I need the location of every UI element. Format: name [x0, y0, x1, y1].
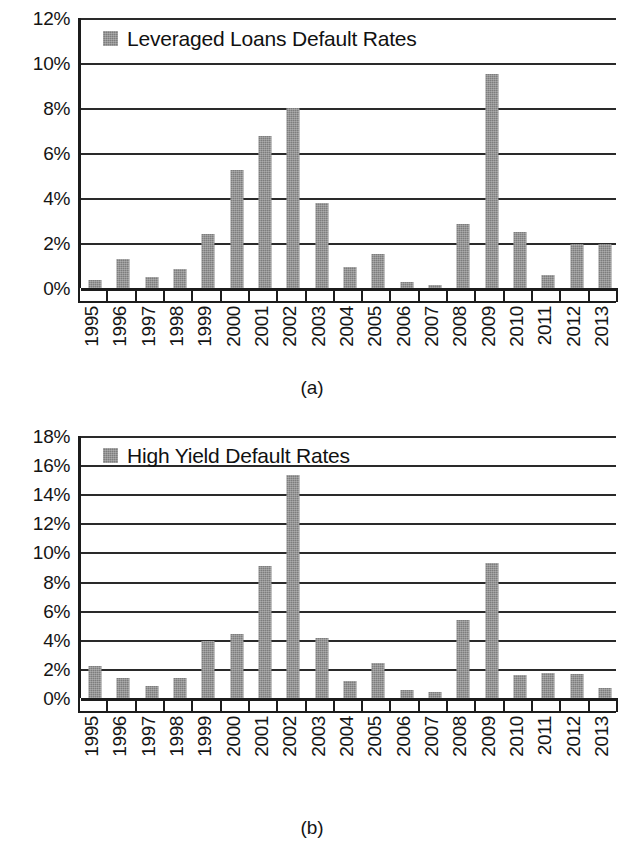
x-axis-label-2007: 2007	[422, 306, 441, 347]
y-axis-tick-label: 16%	[33, 456, 70, 475]
bar-rect	[570, 244, 583, 288]
y-axis-tick-label: 14%	[33, 485, 70, 504]
bar-2005	[364, 436, 392, 698]
bar-rect	[570, 674, 583, 698]
bar-2000	[223, 436, 251, 698]
x-axis-tick-mark	[446, 288, 448, 302]
bar-2008	[449, 436, 477, 698]
legend-a: Leveraged Loans Default Rates	[103, 28, 417, 49]
bar-2005	[364, 18, 392, 288]
legend-swatch-icon	[103, 448, 118, 463]
x-axis-label-1999: 1999	[195, 716, 214, 757]
x-axis-tick-mark	[418, 288, 420, 302]
bar-2010	[506, 436, 534, 698]
bar-2012	[562, 436, 590, 698]
x-axis-tick-mark	[559, 698, 561, 712]
x-axis-tick-mark	[588, 698, 590, 712]
x-axis-tick-mark	[163, 288, 165, 302]
bar-rect	[117, 678, 130, 698]
legend-label-b: High Yield Default Rates	[127, 445, 350, 466]
x-axis-label-1996: 1996	[110, 716, 129, 757]
x-axis-tick-mark	[220, 698, 222, 712]
plot-area-b: High Yield Default Rates	[78, 436, 616, 698]
bar-rect	[457, 620, 470, 698]
x-axis-label-2005: 2005	[365, 716, 384, 757]
bar-rect	[343, 681, 356, 698]
bar-series-a	[81, 18, 616, 288]
x-axis-tick-mark	[531, 698, 533, 712]
bar-rect	[343, 267, 356, 288]
y-axis-tick-label: 0%	[43, 689, 70, 708]
x-axis-label-2006: 2006	[394, 716, 413, 757]
x-axis-label-2001: 2001	[252, 716, 271, 757]
bar-2002	[279, 436, 307, 698]
x-axis-tick-mark	[191, 288, 193, 302]
bar-rect	[400, 282, 413, 288]
x-axis-label-2009: 2009	[479, 306, 498, 347]
bar-2004	[336, 18, 364, 288]
y-axis-tick-label: 6%	[43, 144, 70, 163]
y-axis-tick-label: 4%	[43, 189, 70, 208]
x-axis-label-2012: 2012	[564, 716, 583, 757]
bar-2002	[279, 18, 307, 288]
bar-1995	[81, 436, 109, 698]
bar-rect	[89, 666, 102, 698]
x-axis-label-2008: 2008	[450, 306, 469, 347]
x-axis-tick-mark	[78, 288, 80, 302]
subcaption-a: (a)	[0, 378, 624, 397]
bar-rect	[598, 244, 611, 288]
bar-rect	[428, 285, 441, 288]
x-axis-line-a	[78, 301, 616, 303]
chart-leveraged-loans-default-rates: 0%2%4%6%8%10%12% Leveraged Loans Default…	[0, 0, 624, 345]
y-axis-tick-label: 2%	[43, 234, 70, 253]
x-axis-label-2011: 2011	[535, 716, 554, 755]
bar-rect	[315, 638, 328, 698]
y-axis-labels-b: 0%2%4%6%8%10%12%14%16%18%	[0, 436, 70, 698]
bar-2012	[562, 18, 590, 288]
x-axis-tick-mark	[361, 288, 363, 302]
bar-rect	[259, 136, 272, 288]
x-axis-tick-mark	[616, 698, 618, 712]
x-axis-label-2003: 2003	[309, 306, 328, 347]
y-axis-tick-label: 12%	[33, 514, 70, 533]
x-axis-label-2010: 2010	[507, 306, 526, 347]
bar-rect	[485, 563, 498, 698]
x-axis-label-2013: 2013	[592, 716, 611, 757]
bar-2007	[421, 18, 449, 288]
bar-1995	[81, 18, 109, 288]
bar-2000	[223, 18, 251, 288]
x-axis-tick-mark	[446, 698, 448, 712]
legend-swatch-icon	[103, 31, 118, 46]
bar-2004	[336, 436, 364, 698]
bar-2003	[308, 436, 336, 698]
bar-rect	[542, 275, 555, 289]
y-axis-tick-label: 4%	[43, 630, 70, 649]
y-axis-tick-label: 10%	[33, 54, 70, 73]
gridline	[81, 288, 616, 291]
bar-rect	[174, 269, 187, 288]
bar-2001	[251, 18, 279, 288]
x-axis-tick-mark	[305, 288, 307, 302]
x-axis-label-1995: 1995	[82, 306, 101, 347]
x-axis-label-1997: 1997	[139, 716, 158, 757]
x-axis-tick-mark	[106, 698, 108, 712]
x-axis-tick-mark	[588, 288, 590, 302]
x-axis-label-2010: 2010	[507, 716, 526, 757]
x-axis-label-2002: 2002	[280, 716, 299, 757]
bar-rect	[372, 663, 385, 698]
x-axis-tick-mark	[276, 698, 278, 712]
bar-rect	[372, 254, 385, 288]
x-axis-tick-mark	[106, 288, 108, 302]
x-axis-tick-mark	[559, 288, 561, 302]
bar-series-b	[81, 436, 616, 698]
legend-label-a: Leveraged Loans Default Rates	[127, 28, 417, 49]
x-axis-label-2000: 2000	[224, 306, 243, 347]
bar-rect	[145, 277, 158, 288]
x-axis-tick-mark	[276, 288, 278, 302]
x-axis-tick-mark	[474, 698, 476, 712]
y-axis-tick-label: 6%	[43, 601, 70, 620]
x-axis-tick-mark	[248, 288, 250, 302]
x-axis-tick-mark	[333, 288, 335, 302]
bar-rect	[145, 686, 158, 698]
bar-rect	[315, 203, 328, 289]
